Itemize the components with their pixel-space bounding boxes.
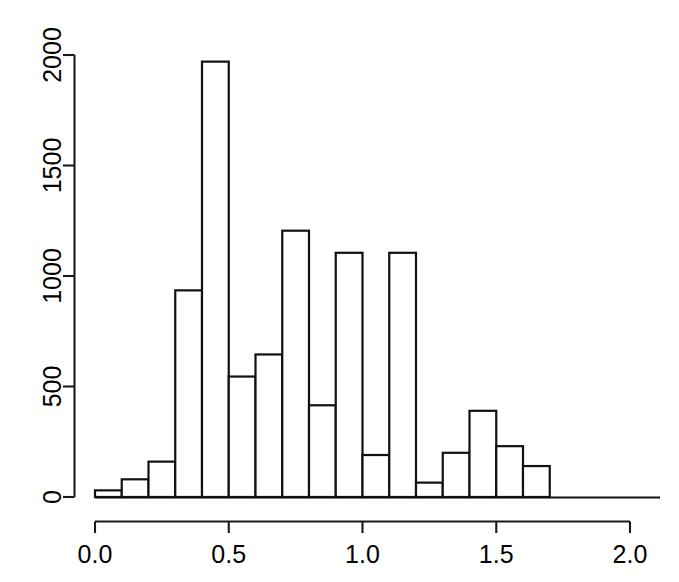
x-axis-tick-label: 0.0 bbox=[78, 540, 113, 568]
histogram-bar bbox=[416, 483, 443, 497]
histogram-bar bbox=[309, 405, 336, 497]
histogram-bar bbox=[389, 253, 416, 497]
histogram-bar bbox=[202, 62, 229, 497]
histogram-bar bbox=[363, 455, 390, 497]
histogram-bar bbox=[336, 253, 363, 497]
histogram-bar bbox=[496, 446, 523, 497]
histogram-bar bbox=[443, 453, 470, 497]
histogram-bar bbox=[523, 466, 550, 497]
histogram-figure: 0500100015002000 0.00.51.01.52.0 bbox=[0, 0, 679, 582]
histogram-bars bbox=[95, 62, 550, 497]
histogram-bar bbox=[95, 490, 122, 497]
histogram-bar bbox=[229, 377, 256, 497]
y-axis-tick-label: 1500 bbox=[38, 138, 66, 194]
x-axis-tick-label: 1.5 bbox=[479, 540, 514, 568]
histogram-bar bbox=[175, 290, 202, 497]
histogram-bar bbox=[122, 479, 149, 497]
x-axis-tick-label: 0.5 bbox=[211, 540, 246, 568]
y-axis-tick-label: 500 bbox=[38, 366, 66, 408]
y-axis-tick-label: 0 bbox=[38, 490, 66, 504]
x-axis-tick-labels: 0.00.51.01.52.0 bbox=[78, 540, 648, 568]
histogram-plot-area: 0500100015002000 0.00.51.01.52.0 bbox=[0, 0, 679, 582]
histogram-bar bbox=[149, 462, 176, 497]
histogram-bar bbox=[256, 354, 283, 497]
y-axis-tick-labels: 0500100015002000 bbox=[38, 27, 66, 504]
histogram-bar bbox=[282, 231, 309, 497]
x-axis-tick-label: 1.0 bbox=[345, 540, 380, 568]
histogram-bar bbox=[470, 411, 497, 497]
y-axis-tick-label: 2000 bbox=[38, 27, 66, 83]
y-axis-tick-label: 1000 bbox=[38, 248, 66, 304]
x-axis bbox=[95, 522, 630, 534]
x-axis-tick-label: 2.0 bbox=[613, 540, 648, 568]
